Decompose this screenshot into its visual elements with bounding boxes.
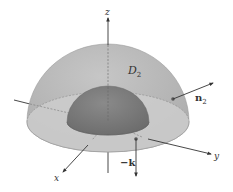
y-axis (148, 139, 211, 154)
hemisphere-shell-diagram: z y x D2 n2 −k (0, 0, 233, 192)
normal-label-neg-k: −k (120, 157, 136, 168)
axis-label-x: x (54, 173, 59, 183)
axis-label-z: z (104, 7, 110, 17)
normal-label-n2: n2 (195, 92, 207, 106)
axis-label-y: y (213, 151, 220, 161)
negative-y-axis (14, 100, 30, 104)
